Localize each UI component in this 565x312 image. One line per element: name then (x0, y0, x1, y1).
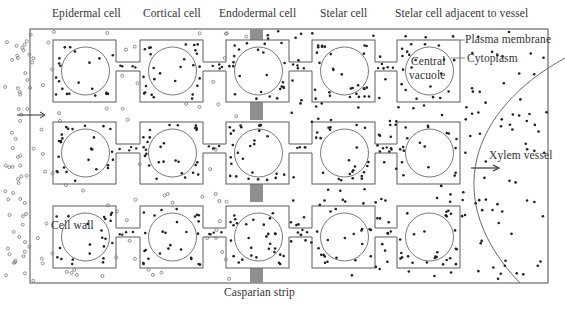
root-transport-diagram: Epidermal cell Cortical cell Endodermal … (0, 0, 565, 312)
label-casparian-strip: Casparian strip (224, 287, 295, 299)
label-stelar-cell: Stelar cell (320, 8, 367, 20)
cell-wall-box (312, 206, 375, 268)
cell-wall-box (397, 122, 460, 184)
label-central-vacuole-1: Central (411, 56, 446, 68)
label-stelar-cell-adjacent: Stelar cell adjacent to vessel (395, 8, 528, 20)
label-xylem-vessel: Xylem vessel (489, 150, 552, 162)
xylem-vessel-wall (474, 58, 565, 283)
label-cortical-cell: Cortical cell (143, 8, 201, 20)
cell-wall-box (226, 122, 289, 184)
cell-wall-box (53, 122, 116, 184)
cell-wall-box (312, 122, 375, 184)
label-epidermal-cell: Epidermal cell (52, 8, 121, 20)
label-cytoplasm: Cytoplasm (467, 53, 518, 65)
label-plasma-membrane: Plasma membrane (465, 34, 551, 46)
label-cell-wall: Cell wall (51, 220, 94, 232)
cells (53, 40, 460, 268)
cell-wall-box (140, 40, 203, 102)
label-endodermal-cell: Endodermal cell (219, 8, 296, 20)
label-central-vacuole-2: vacuole (409, 70, 445, 82)
cell-wall-box (140, 122, 203, 184)
cell-wall-box (312, 40, 375, 102)
diagram-canvas (0, 0, 565, 312)
